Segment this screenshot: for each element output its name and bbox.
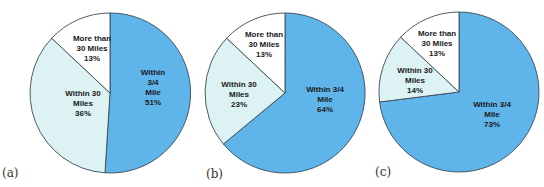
panel-caption: (c) [375, 165, 391, 179]
slice-label-mid: Within 30 Miles 36% [65, 89, 100, 119]
slice-label-near: Within 3/4 Mile 73% [473, 100, 511, 130]
slice-label-far: More than 30 Miles 13% [418, 29, 456, 59]
panel-caption: (a) [2, 166, 19, 180]
slice-label-near: Within 3/4 Mile 64% [306, 85, 344, 115]
slice-label-far: More than 30 Miles 13% [245, 30, 283, 60]
pie-panel-b: Within 3/4 Mile 64% Within 30 Miles 23% … [180, 0, 365, 187]
slice-label-mid: Within 30 Miles 14% [397, 66, 432, 96]
slice-label-mid: Within 30 Miles 23% [221, 80, 256, 110]
pie-panel-c: Within 3/4 Mile 73% Within 30 Miles 14% … [360, 0, 544, 187]
slice-label-near: Within 3/4 Mile 51% [137, 68, 169, 108]
slice-label-far: More than 30 Miles 13% [73, 34, 111, 64]
panel-caption: (b) [206, 167, 223, 181]
pie-panel-a: Within 3/4 Mile 51% Within 30 Miles 36% … [0, 0, 185, 187]
